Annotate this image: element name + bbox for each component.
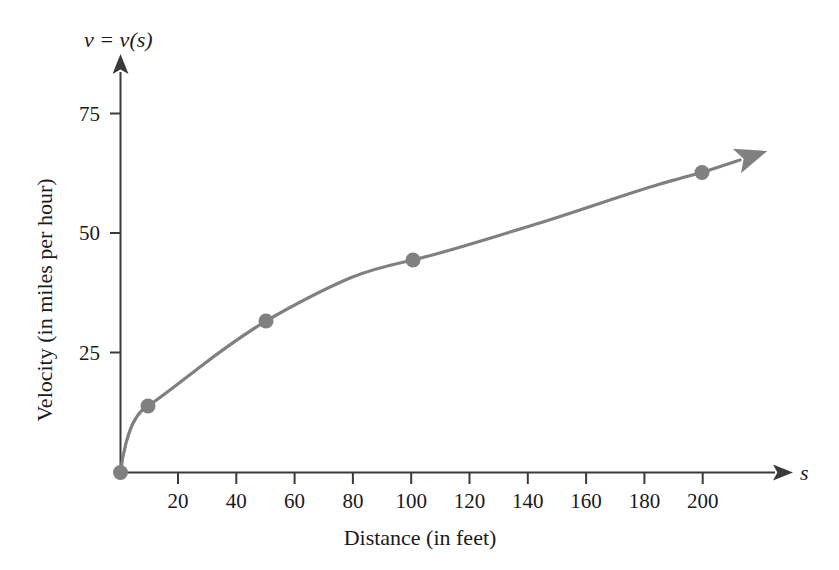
x-tick-label-20: 20 <box>168 489 189 513</box>
x-tick-label-200: 200 <box>687 489 719 513</box>
x-axis-ticks <box>178 472 703 484</box>
x-tick-label-60: 60 <box>284 489 305 513</box>
data-point-s200 <box>695 165 710 180</box>
y-tick-label-50: 50 <box>79 221 100 245</box>
y-axis-title: Velocity (in miles per hour) <box>32 178 57 421</box>
velocity-distance-chart: 75 50 25 20 40 60 80 100 120 140 160 <box>0 0 839 570</box>
x-tick-label-40: 40 <box>226 489 247 513</box>
y-tick-label-25: 25 <box>79 341 100 365</box>
velocity-distance-figure: 75 50 25 20 40 60 80 100 120 140 160 <box>0 0 839 570</box>
data-point-s50 <box>259 314 274 329</box>
x-axis-tick-labels: 20 40 60 80 100 120 140 160 180 200 <box>168 489 719 513</box>
x-tick-label-160: 160 <box>570 489 602 513</box>
x-tick-label-100: 100 <box>395 489 427 513</box>
axes-group <box>121 72 776 473</box>
data-point-s0 <box>113 465 128 480</box>
velocity-curve-group <box>121 160 741 473</box>
x-tick-label-180: 180 <box>629 489 661 513</box>
data-point-markers <box>113 165 710 480</box>
x-tick-label-120: 120 <box>454 489 486 513</box>
data-point-s100 <box>406 253 421 268</box>
y-axis-variable-label: v = v(s) <box>84 27 153 52</box>
y-axis-tick-labels: 75 50 25 <box>79 102 100 365</box>
x-tick-label-140: 140 <box>512 489 544 513</box>
y-tick-label-75: 75 <box>79 102 100 126</box>
y-axis-ticks <box>110 114 121 353</box>
data-point-s10 <box>141 399 156 414</box>
x-axis-title: Distance (in feet) <box>344 525 497 550</box>
x-tick-label-80: 80 <box>342 489 363 513</box>
velocity-curve <box>121 160 741 473</box>
x-axis-variable-label: s <box>800 460 809 485</box>
